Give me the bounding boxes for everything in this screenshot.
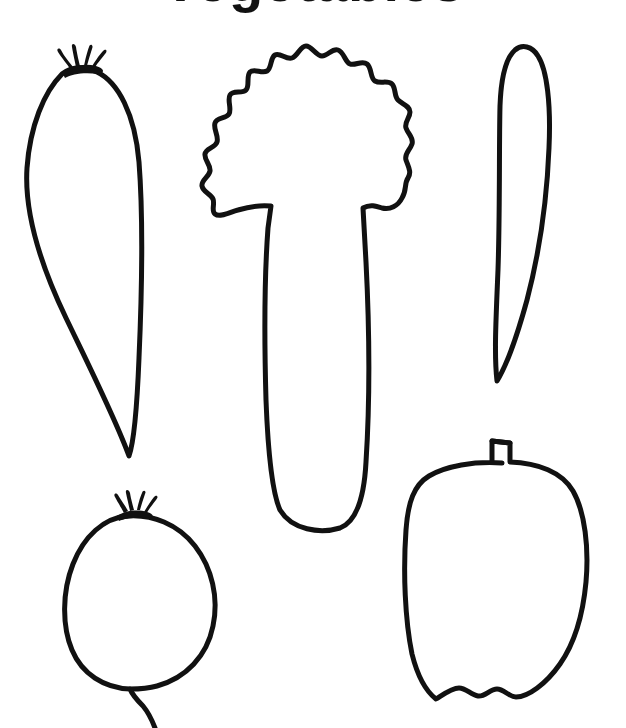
figure-bell-pepper <box>405 441 587 699</box>
bell-pepper-stem-top <box>492 441 510 443</box>
coloring-page-canvas: Vegetables <box>0 0 626 728</box>
broccoli-outline <box>202 46 412 531</box>
vegetable-outlines-artwork <box>0 0 626 728</box>
radish-right-outline <box>127 516 215 689</box>
chili-pepper-outline <box>495 47 549 381</box>
radish-left-and-root-outline <box>65 516 155 728</box>
figure-chili-pepper <box>495 47 549 381</box>
figure-broccoli <box>202 46 412 531</box>
carrot-leaf-crown-icon <box>57 44 106 78</box>
radish-leaf-crown-icon <box>114 490 157 521</box>
carrot-body-outline <box>27 68 142 456</box>
figure-carrot <box>27 44 142 456</box>
bell-pepper-outline <box>405 441 587 699</box>
figure-radish <box>65 490 215 728</box>
